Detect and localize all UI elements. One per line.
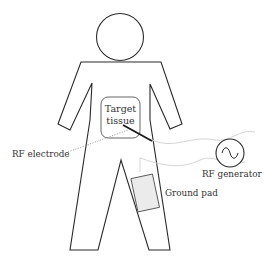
- head: [97, 14, 144, 61]
- target-tissue-label-line1: Target: [105, 103, 137, 114]
- ground-pad-label: Ground pad: [165, 188, 218, 198]
- rf-ablation-diagram: Target tissue RF electrode Ground pad RF…: [0, 0, 270, 261]
- rf-electrode-needle: [123, 125, 152, 141]
- rf-generator-label: RF generator: [202, 169, 263, 179]
- rf-electrode-label: RF electrode: [12, 149, 70, 159]
- target-tissue-label-line2: tissue: [106, 115, 135, 126]
- electrode-wire: [152, 131, 255, 143]
- body-outline: [58, 62, 182, 250]
- rf-electrode-leader: [68, 130, 128, 152]
